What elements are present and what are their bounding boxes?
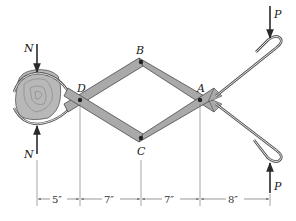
label-N-top: N	[23, 42, 34, 55]
lower-handle	[216, 104, 281, 162]
tongs-mechanism-diagram: B C D A N N P P 5″ 7″ 7″ 8″	[0, 0, 296, 221]
label-C: C	[137, 145, 146, 158]
label-P-bottom: P	[273, 180, 282, 193]
dimension-label-1: 5″	[52, 194, 62, 205]
pin-A	[198, 98, 202, 102]
pin-C	[139, 136, 143, 140]
dimension-label-3: 7″	[164, 194, 174, 205]
label-N-bottom: N	[23, 148, 34, 161]
link-CA	[139, 88, 222, 142]
label-P-top: P	[273, 8, 282, 21]
pin-D	[78, 98, 82, 102]
label-A: A	[196, 82, 205, 95]
dimension-label-4: 8″	[228, 194, 238, 205]
upper-handle	[216, 36, 281, 96]
label-B: B	[135, 44, 144, 57]
link-DB	[64, 58, 143, 112]
link-DC	[64, 88, 143, 142]
dimension-label-2: 7″	[104, 194, 114, 205]
label-D: D	[76, 82, 86, 95]
link-BA	[139, 58, 222, 112]
pin-B	[139, 60, 143, 64]
